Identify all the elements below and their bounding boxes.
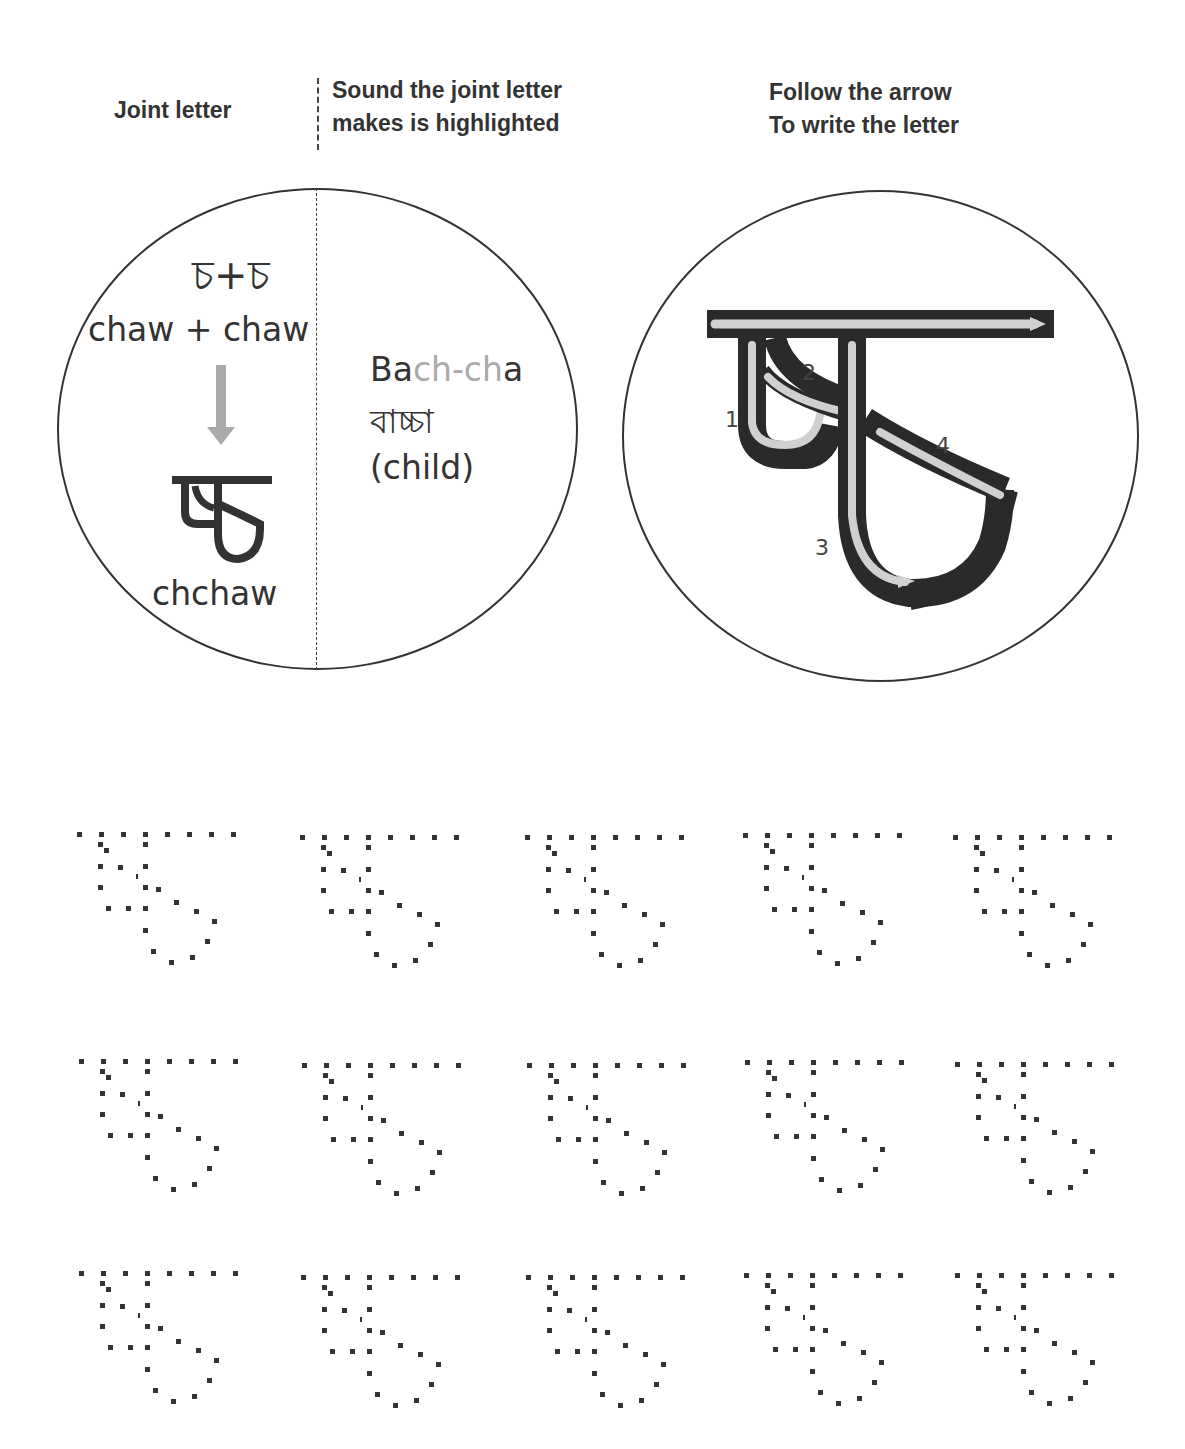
- stroke-number-1: 1: [725, 407, 739, 432]
- tracing-pattern[interactable]: [72, 1052, 252, 1202]
- tracing-pattern[interactable]: [738, 1053, 918, 1203]
- tracing-pattern[interactable]: [72, 1264, 252, 1414]
- joint-letter-glyph: [170, 474, 275, 566]
- header-sound-line1: Sound the joint letter: [332, 74, 562, 107]
- stroke-number-2: 2: [802, 360, 816, 385]
- tracing-pattern[interactable]: [70, 825, 250, 975]
- circle-divider: [316, 188, 317, 670]
- header-sound: Sound the joint letter makes is highligh…: [332, 74, 562, 140]
- example-word-meaning: (child): [370, 448, 474, 487]
- stroke-number-4: 4: [936, 433, 950, 458]
- tracing-pattern[interactable]: [293, 828, 473, 978]
- joint-letter-romanization: chchaw: [152, 574, 277, 613]
- down-arrow-icon: [205, 365, 237, 447]
- header-follow-line2: To write the letter: [769, 109, 959, 142]
- component-romanization: chaw + chaw: [88, 310, 309, 349]
- tracing-pattern[interactable]: [737, 1266, 917, 1416]
- header-divider: [317, 78, 319, 150]
- header-follow-arrow: Follow the arrow To write the letter: [769, 76, 959, 142]
- tracing-pattern[interactable]: [946, 828, 1126, 978]
- example-word-prefix: Ba: [370, 350, 413, 389]
- example-word-suffix: a: [503, 350, 523, 389]
- tracing-pattern[interactable]: [295, 1056, 475, 1206]
- component-letters: চ+চ: [192, 244, 270, 311]
- tracing-pattern[interactable]: [519, 1268, 699, 1418]
- tracing-pattern[interactable]: [294, 1268, 474, 1418]
- example-word-bengali: বাচ্চা: [370, 396, 434, 452]
- header-follow-line1: Follow the arrow: [769, 76, 959, 109]
- letter-info-circle: [57, 188, 578, 670]
- tracing-pattern[interactable]: [736, 826, 916, 976]
- tracing-pattern[interactable]: [948, 1055, 1128, 1205]
- example-word-highlight: ch-ch: [413, 350, 503, 389]
- tracing-pattern[interactable]: [948, 1266, 1128, 1416]
- tracing-pattern[interactable]: [520, 1056, 700, 1206]
- stroke-number-3: 3: [815, 535, 829, 560]
- header-joint-letter: Joint letter: [114, 94, 232, 127]
- example-word-romanized: Bach-cha: [370, 350, 523, 389]
- header-sound-line2: makes is highlighted: [332, 107, 562, 140]
- stroke-order-diagram: 1 2 3 4: [700, 305, 1060, 610]
- tracing-pattern[interactable]: [518, 828, 698, 978]
